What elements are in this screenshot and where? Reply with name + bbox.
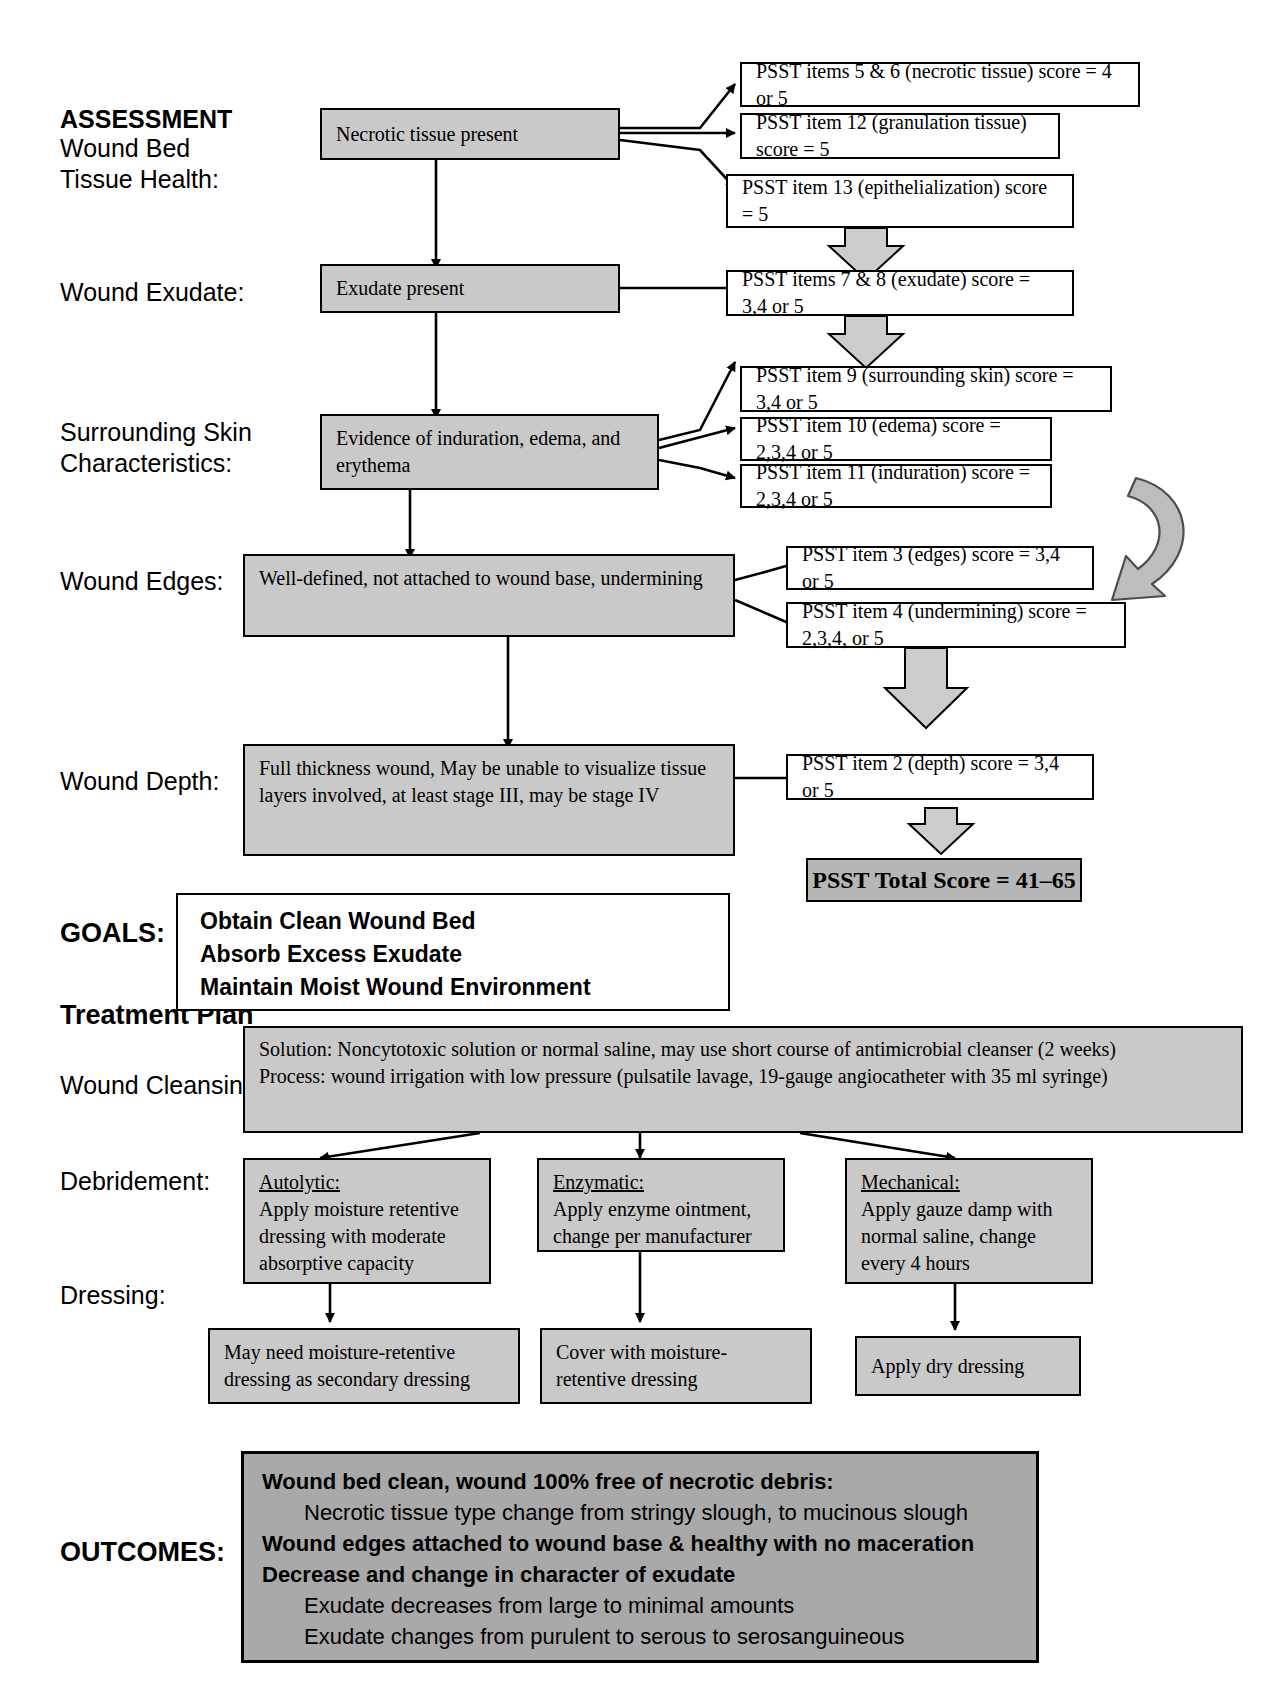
label-wound-depth: Wound Depth: [60,766,219,797]
psst-box-item-12: PSST item 12 (granulation tissue) score … [740,113,1060,159]
dressing-box-mechanical: Apply dry dressing [855,1336,1081,1396]
dressing-text: Apply dry dressing [857,1344,1079,1389]
debridement-title: Enzymatic: [553,1171,644,1193]
label-outcomes: OUTCOMES: [60,1537,225,1568]
psst-items-7-8-text: PSST items 7 & 8 (exudate) score = 3,4 o… [728,257,1072,329]
psst-box-items-7-8: PSST items 7 & 8 (exudate) score = 3,4 o… [726,270,1074,316]
dressing-box-autolytic: May need moisture-retentive dressing as … [208,1328,520,1404]
psst-item-2-text: PSST item 2 (depth) score = 3,4 or 5 [788,741,1092,813]
psst-item-12-text: PSST item 12 (granulation tissue) score … [742,100,1058,172]
finding-box-exudate: Exudate present [320,264,620,313]
finding-edges-text: Well-defined, not attached to wound base… [245,556,733,601]
label-wound-cleansing: Wound Cleansing: [60,1070,264,1101]
psst-box-item-3: PSST item 3 (edges) score = 3,4 or 5 [786,546,1094,590]
debridement-body: Apply enzyme ointment, change per manufa… [553,1196,769,1250]
psst-box-item-2: PSST item 2 (depth) score = 3,4 or 5 [786,754,1094,800]
outcomes-box: Wound bed clean, wound 100% free of necr… [241,1451,1039,1663]
outcome-line: Decrease and change in character of exud… [262,1559,1018,1590]
finding-exudate-text: Exudate present [322,266,618,311]
outcome-line: Exudate decreases from large to minimal … [262,1590,1018,1621]
debridement-title: Autolytic: [259,1171,340,1193]
finding-box-necrotic: Necrotic tissue present [320,108,620,160]
psst-item-4-text: PSST item 4 (undermining) score = 2,3,4,… [788,589,1124,661]
outcome-line: Exudate changes from purulent to serous … [262,1621,1018,1652]
debridement-box-enzymatic: Enzymatic: Apply enzyme ointment, change… [537,1158,785,1252]
debridement-box-autolytic: Autolytic: Apply moisture retentive dres… [243,1158,491,1284]
goals-box: Obtain Clean Wound Bed Absorb Excess Exu… [176,893,730,1011]
finding-box-wound-edges: Well-defined, not attached to wound base… [243,554,735,637]
label-dressing: Dressing: [60,1280,166,1311]
finding-box-wound-depth: Full thickness wound, May be unable to v… [243,744,735,856]
psst-box-item-13: PSST item 13 (epithelialization) score =… [726,174,1074,228]
psst-total-score-box: PSST Total Score = 41–65 [806,858,1082,902]
curved-feedback-arrow [1112,478,1184,600]
debridement-body: Apply gauze damp with normal saline, cha… [861,1196,1077,1277]
finding-box-surrounding-skin: Evidence of induration, edema, and eryth… [320,414,659,490]
finding-necrotic-text: Necrotic tissue present [322,112,618,157]
cleansing-solution-text: Solution: Noncytotoxic solution or norma… [259,1036,1227,1063]
outcome-line: Necrotic tissue type change from stringy… [262,1497,1018,1528]
cleansing-process-text: Process: wound irrigation with low press… [259,1063,1227,1090]
goal-item: Maintain Moist Wound Environment [200,971,706,1004]
psst-box-item-11: PSST item 11 (induration) score = 2,3,4 … [740,464,1052,508]
label-surrounding-skin: Surrounding Skin Characteristics: [60,417,252,479]
psst-item-13-text: PSST item 13 (epithelialization) score =… [728,165,1072,237]
dressing-text: Cover with moisture-retentive dressing [542,1330,810,1402]
debridement-box-mechanical: Mechanical: Apply gauze damp with normal… [845,1158,1093,1284]
debridement-body: Apply moisture retentive dressing with m… [259,1196,475,1277]
psst-total-score-text: PSST Total Score = 41–65 [812,867,1076,894]
label-wound-bed-tissue-health: Wound Bed Tissue Health: [60,133,219,195]
label-wound-exudate: Wound Exudate: [60,277,244,308]
outcome-line: Wound edges attached to wound base & hea… [262,1528,1018,1559]
goal-item: Absorb Excess Exudate [200,938,706,971]
dressing-text: May need moisture-retentive dressing as … [210,1330,518,1402]
psst-item-11-text: PSST item 11 (induration) score = 2,3,4 … [742,450,1050,522]
wound-cleansing-box: Solution: Noncytotoxic solution or norma… [243,1026,1243,1133]
label-debridement: Debridement: [60,1166,210,1197]
dressing-box-enzymatic: Cover with moisture-retentive dressing [540,1328,812,1404]
label-goals: GOALS: [60,918,165,949]
goals-list: Obtain Clean Wound Bed Absorb Excess Exu… [178,895,728,1014]
flowchart-canvas: ASSESSMENT Wound Bed Tissue Health: Woun… [0,0,1266,1691]
psst-box-item-4: PSST item 4 (undermining) score = 2,3,4,… [786,602,1126,648]
goal-item: Obtain Clean Wound Bed [200,905,706,938]
label-wound-edges: Wound Edges: [60,566,224,597]
label-assessment: ASSESSMENT [60,104,232,135]
finding-depth-text: Full thickness wound, May be unable to v… [245,746,733,818]
debridement-title: Mechanical: [861,1171,960,1193]
finding-surrounding-text: Evidence of induration, edema, and eryth… [322,416,657,488]
outcome-line: Wound bed clean, wound 100% free of necr… [262,1466,1018,1497]
